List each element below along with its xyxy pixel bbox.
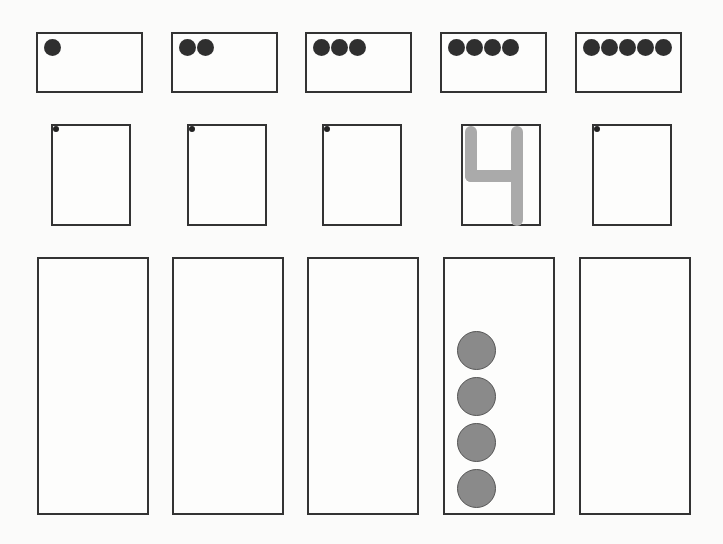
dot-icon (583, 39, 600, 56)
numeral-write-box-2[interactable] (187, 124, 267, 226)
dot-icon (448, 39, 465, 56)
counter-icon (457, 469, 496, 508)
numeral-write-box-4[interactable] (461, 124, 541, 226)
counter-icon (457, 423, 496, 462)
numeral-write-box-3[interactable] (322, 124, 402, 226)
dot-icon (349, 39, 366, 56)
dot-count-box-5 (575, 32, 682, 93)
counter-icon (457, 377, 496, 416)
dot-icon (466, 39, 483, 56)
dot-icon (313, 39, 330, 56)
dot-group (583, 39, 672, 56)
counter-box-4[interactable] (443, 257, 555, 515)
dot-count-box-4 (440, 32, 547, 93)
start-point-icon (53, 126, 59, 132)
dot-group (44, 39, 61, 56)
start-point-icon (324, 126, 330, 132)
dot-icon (484, 39, 501, 56)
dot-icon (502, 39, 519, 56)
counter-icon (457, 331, 496, 370)
dot-icon (44, 39, 61, 56)
numeral-four-stroke (511, 126, 523, 226)
dot-count-box-3 (305, 32, 412, 93)
dot-group (313, 39, 366, 56)
counter-box-2[interactable] (172, 257, 284, 515)
start-point-icon (189, 126, 195, 132)
dot-count-box-1 (36, 32, 143, 93)
dot-icon (197, 39, 214, 56)
counter-box-3[interactable] (307, 257, 419, 515)
dot-icon (637, 39, 654, 56)
dot-icon (179, 39, 196, 56)
dot-group (179, 39, 214, 56)
dot-group (448, 39, 519, 56)
counter-box-5[interactable] (579, 257, 691, 515)
dot-icon (619, 39, 636, 56)
start-point-icon (594, 126, 600, 132)
dot-icon (655, 39, 672, 56)
numeral-write-box-5[interactable] (592, 124, 672, 226)
dot-count-box-2 (171, 32, 278, 93)
dot-icon (601, 39, 618, 56)
numeral-write-box-1[interactable] (51, 124, 131, 226)
dot-icon (331, 39, 348, 56)
counter-box-1[interactable] (37, 257, 149, 515)
